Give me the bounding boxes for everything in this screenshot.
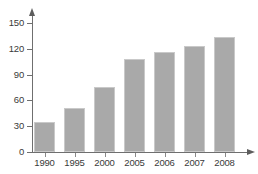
x-axis-line [32,152,248,153]
x-axis-tick-label: 2006 [150,158,180,168]
y-axis-tick [27,152,33,153]
bar-chart: 0306090120150 19901995200020052006200720… [0,0,258,174]
x-axis-tick-label: 1990 [30,158,60,168]
y-axis-tick-label: 90 [0,70,24,80]
y-axis-tick-label: 0 [0,147,24,157]
plot-area [33,18,251,152]
bar [64,108,85,152]
bar [154,52,175,152]
x-axis-tick-label: 2005 [120,158,150,168]
y-axis-tick-label: 30 [0,121,24,131]
y-axis-arrow-icon [29,8,35,16]
x-axis-tick-label: 2008 [210,158,240,168]
bar [214,37,235,152]
bar [184,46,205,152]
x-axis-tick-label: 2007 [180,158,210,168]
bar [34,122,55,152]
bar [124,59,145,152]
x-axis-tick-label: 1995 [60,158,90,168]
y-axis-tick-label: 60 [0,95,24,105]
y-axis-tick-label: 120 [0,44,24,54]
y-axis-tick-label: 150 [0,18,24,28]
x-axis-tick-label: 2000 [90,158,120,168]
bar [94,87,115,152]
